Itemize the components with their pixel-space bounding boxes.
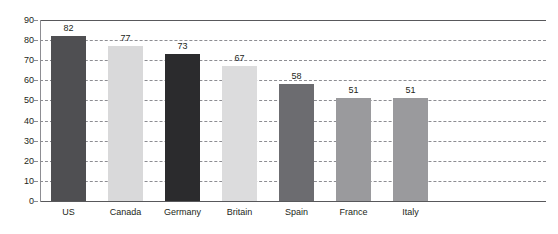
gridline-0	[40, 201, 546, 202]
y-tick-mark-20	[34, 161, 38, 162]
x-axis-labels: USCanadaGermanyBritainSpainFranceItaly	[40, 206, 546, 222]
bar-slot-france: 51	[325, 20, 382, 201]
x-tick-label-canada: Canada	[97, 206, 154, 218]
bar-slot-germany: 73	[154, 20, 211, 201]
y-tick-mark-90	[34, 20, 38, 21]
y-tick-label-70: 70	[0, 56, 34, 65]
x-tick-label-france: France	[325, 206, 382, 218]
x-tick-label-italy: Italy	[382, 206, 439, 218]
x-tick-label-germany: Germany	[154, 206, 211, 218]
y-axis-labels: 9080706050403020100	[0, 20, 34, 201]
bar-italy[interactable]	[393, 98, 428, 201]
bar-slot-us: 82	[40, 20, 97, 201]
y-tick-label-30: 30	[0, 137, 34, 146]
y-tick-label-80: 80	[0, 36, 34, 45]
y-tick-label-10: 10	[0, 177, 34, 186]
bar-value-label-canada: 77	[108, 34, 143, 43]
y-tick-mark-80	[34, 40, 38, 41]
bar-britain[interactable]	[222, 66, 257, 201]
x-tick-label-britain: Britain	[211, 206, 268, 218]
y-tick-mark-0	[34, 201, 38, 202]
bar-slot-spain: 58	[268, 20, 325, 201]
bar-france[interactable]	[336, 98, 371, 201]
y-tick-label-0: 0	[0, 197, 34, 206]
bar-series: 82777367585151	[40, 20, 546, 201]
bar-value-label-spain: 58	[279, 72, 314, 81]
x-tick-label-us: US	[40, 206, 97, 218]
bar-germany[interactable]	[165, 54, 200, 201]
y-tick-label-40: 40	[0, 117, 34, 126]
bar-canada[interactable]	[108, 46, 143, 201]
y-tick-mark-30	[34, 141, 38, 142]
x-tick-label-spain: Spain	[268, 206, 325, 218]
y-tick-label-90: 90	[0, 16, 34, 25]
y-tick-label-20: 20	[0, 157, 34, 166]
bar-slot-britain: 67	[211, 20, 268, 201]
y-tick-mark-40	[34, 121, 38, 122]
clipped-caption	[18, 0, 318, 3]
y-tick-mark-10	[34, 181, 38, 182]
bar-slot-italy: 51	[382, 20, 439, 201]
y-tick-label-60: 60	[0, 76, 34, 85]
y-tick-mark-60	[34, 80, 38, 81]
bar-chart: 9080706050403020100 82777367585151 USCan…	[0, 0, 558, 234]
y-tick-mark-50	[34, 100, 38, 101]
bar-slot-canada: 77	[97, 20, 154, 201]
bar-us[interactable]	[51, 36, 86, 201]
y-tick-mark-70	[34, 60, 38, 61]
bar-spain[interactable]	[279, 84, 314, 201]
bar-value-label-italy: 51	[393, 86, 428, 95]
bar-value-label-france: 51	[336, 86, 371, 95]
bar-value-label-britain: 67	[222, 54, 257, 63]
bar-value-label-germany: 73	[165, 42, 200, 51]
bar-value-label-us: 82	[51, 24, 86, 33]
y-tick-label-50: 50	[0, 96, 34, 105]
